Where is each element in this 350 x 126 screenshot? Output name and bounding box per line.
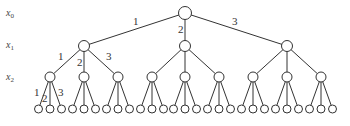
level-label-x2: x2 — [5, 71, 14, 84]
leaf-node — [92, 105, 100, 113]
leaf-node — [148, 105, 156, 113]
root-node — [179, 7, 192, 20]
labels: 123123123x0x1x2 — [5, 7, 238, 104]
level-subscript: 0 — [10, 12, 14, 20]
leaf-node — [227, 105, 235, 113]
leaf-node — [283, 105, 291, 113]
edge-label: 3 — [232, 15, 238, 27]
level1-node — [79, 41, 90, 52]
leaf-node — [317, 105, 325, 113]
leaf-node — [114, 105, 122, 113]
tree-edge — [185, 46, 219, 77]
level2-node — [316, 72, 326, 82]
level2-node — [113, 72, 123, 82]
leaf-node — [46, 105, 54, 113]
edge-label: 3 — [106, 50, 112, 62]
level2-node — [248, 72, 258, 82]
leaf-node — [238, 105, 246, 113]
leaf-node — [160, 105, 168, 113]
tree-svg: 123123123x0x1x2 — [0, 0, 350, 126]
leaf-node — [103, 105, 111, 113]
tree-edge — [253, 46, 287, 77]
level-label-x1: x1 — [5, 39, 14, 52]
level2-node — [45, 72, 55, 82]
leaf-node — [249, 105, 257, 113]
edge-label: 2 — [178, 23, 184, 35]
level1-node — [282, 41, 293, 52]
leaf-node — [80, 105, 88, 113]
edge-label: 3 — [58, 86, 64, 98]
tree-edge — [152, 46, 185, 77]
leaf-node — [329, 105, 337, 113]
edge-label: 1 — [133, 15, 139, 27]
leaf-node — [126, 105, 134, 113]
leaf-node — [181, 105, 189, 113]
level2-node — [282, 72, 292, 82]
level2-node — [180, 72, 190, 82]
leaf-node — [204, 105, 212, 113]
leaf-node — [137, 105, 145, 113]
leaf-node — [272, 105, 280, 113]
edge-label: 2 — [42, 92, 48, 104]
level-subscript: 1 — [10, 44, 14, 52]
leaf-node — [193, 105, 201, 113]
leaf-node — [261, 105, 269, 113]
level2-node — [79, 72, 89, 82]
tree-edge — [84, 46, 118, 77]
leaf-node — [295, 105, 303, 113]
search-tree-diagram: 123123123x0x1x2 — [0, 0, 350, 126]
leaf-node — [35, 105, 43, 113]
leaf-node — [170, 105, 178, 113]
edge-label: 1 — [58, 50, 64, 62]
leaf-node — [58, 105, 66, 113]
edges — [39, 13, 333, 109]
edge-label: 2 — [77, 56, 83, 68]
level2-node — [147, 72, 157, 82]
level-label-x0: x0 — [5, 7, 14, 20]
leaf-node — [215, 105, 223, 113]
leaf-node — [69, 105, 77, 113]
edge-label: 1 — [34, 86, 40, 98]
level2-node — [214, 72, 224, 82]
level-subscript: 2 — [10, 76, 14, 84]
level1-node — [180, 41, 191, 52]
tree-edge — [287, 46, 321, 77]
leaf-node — [306, 105, 314, 113]
